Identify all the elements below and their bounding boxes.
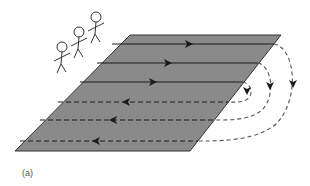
stick-figure-person-icon [54, 42, 70, 73]
stick-figure-person-icon [88, 12, 104, 43]
walk-pattern-diagram [0, 0, 310, 186]
arrow-down-icon [289, 80, 297, 88]
stick-figure-person-icon [71, 27, 87, 58]
arrow-down-icon [243, 87, 251, 95]
arrow-down-icon [266, 82, 274, 90]
figure-caption: (a) [22, 168, 33, 178]
walkers-group [54, 12, 104, 73]
grey-field-plot [15, 35, 281, 151]
